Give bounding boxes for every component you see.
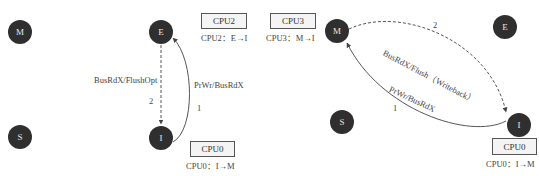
state-e-node: E: [149, 20, 173, 44]
edge-i-to-m-solid: [347, 43, 506, 127]
state-m-node: M: [8, 20, 32, 44]
state-i-node: I: [149, 126, 173, 150]
cpu2-caption: CPU2：E→I: [201, 31, 247, 43]
transition-order-2-right: 2: [433, 20, 437, 30]
transition-label-busrdx-flushopt: BusRdX/FlushOpt: [94, 75, 157, 85]
cpu3-box: CPU3: [270, 13, 316, 29]
transition-order-1-right: 1: [393, 103, 397, 113]
state-s-node: S: [8, 125, 32, 149]
state-i-node-right: I: [507, 113, 531, 137]
cpu3-caption: CPU3：M→I: [266, 31, 315, 43]
cpu0-box-right: CPU0: [492, 138, 537, 155]
cpu2-box: CPU2: [201, 13, 247, 29]
state-e-node-right: E: [493, 15, 517, 39]
transition-label-prwr-busrdx: PrWr/BusRdX: [194, 80, 244, 90]
state-s-node-right: S: [330, 110, 354, 134]
transition-order-2: 2: [149, 96, 153, 106]
cpu0-caption-right: CPU0：I→M: [486, 157, 535, 169]
state-m-node-right: M: [325, 19, 349, 43]
cpu0-caption-left: CPU0：I→M: [186, 159, 235, 171]
edge-i-to-e-solid: [173, 38, 190, 142]
transition-order-1: 1: [197, 103, 201, 113]
cpu0-box-left: CPU0: [190, 141, 235, 157]
